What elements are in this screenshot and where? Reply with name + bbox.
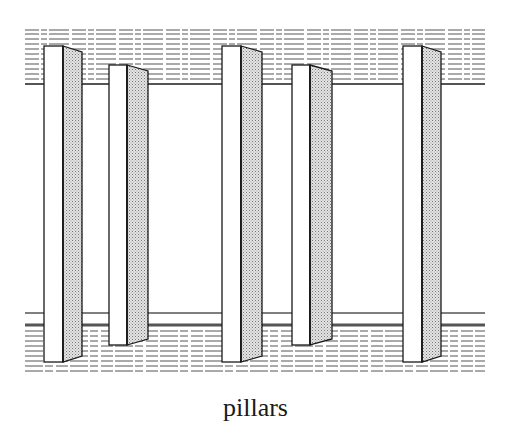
pillar-side-face — [63, 46, 82, 362]
figure-caption: pillars — [0, 393, 511, 423]
pillar-front-face — [222, 46, 241, 362]
pillar-2 — [109, 65, 148, 345]
pillar-side-face — [422, 46, 441, 362]
pillar-3 — [222, 46, 262, 362]
pillar-group — [44, 46, 441, 362]
pillar-5 — [403, 46, 441, 362]
pillar-4 — [292, 65, 332, 345]
pillar-front-face — [403, 46, 422, 362]
pillar-side-face — [241, 46, 262, 362]
pillar-front-face — [44, 46, 63, 362]
pillar-1 — [44, 46, 82, 362]
pillar-side-face — [310, 65, 332, 345]
pillar-side-face — [127, 65, 148, 345]
pillar-front-face — [109, 65, 127, 345]
pillar-front-face — [292, 65, 310, 345]
pillars-diagram — [0, 0, 511, 440]
